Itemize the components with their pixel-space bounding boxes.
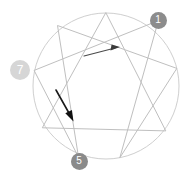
enneagram-arrows: [56, 44, 120, 121]
arrow-upper-right: [84, 44, 120, 56]
enneagram-diagram-canvas: 1 7 5: [0, 0, 185, 176]
enneagram-circle-group: [33, 13, 179, 159]
triangle-9-3-6: [43, 13, 166, 131]
outer-circle: [33, 13, 179, 159]
hexad-1-4-2-8-5-7: [34, 21, 177, 158]
badge-label-5: 5: [76, 156, 82, 166]
enneagram-point-badge-7[interactable]: 7: [10, 60, 30, 80]
arrow-lower-left: [56, 90, 74, 122]
enneagram-point-badge-5[interactable]: 5: [71, 153, 88, 170]
badge-label-7: 7: [17, 64, 24, 76]
enneagram-point-badge-1[interactable]: 1: [150, 12, 167, 29]
badge-label-1: 1: [155, 15, 161, 25]
enneagram-inner-lines: [34, 13, 177, 158]
